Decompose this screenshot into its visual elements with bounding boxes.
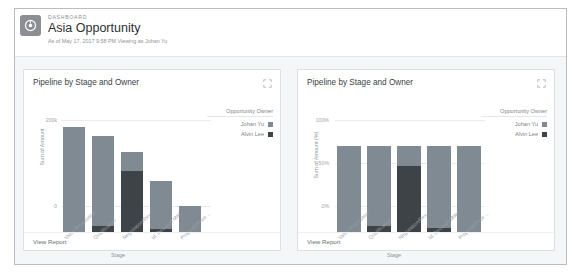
chart-card-pipeline-amount: Pipeline by Stage and Owner Sum of Amoun… [23, 69, 281, 251]
legend-swatch-icon [542, 132, 547, 137]
bar-group [61, 120, 211, 232]
y-tick-label: 0 [37, 203, 57, 209]
y-tick-label: 100% [309, 117, 329, 123]
y-tick-label: 0% [309, 203, 329, 209]
legend-swatch-icon [542, 122, 547, 127]
x-axis-label: Stage [387, 252, 401, 258]
dashboard-timestamp: As of May 17, 2017 9:58 PM Viewing as Jo… [48, 38, 167, 44]
card-title: Pipeline by Stage and Owner [33, 78, 139, 87]
card-footer: View Report [24, 232, 280, 250]
legend-item-alvin-lee[interactable]: Alvin Lee [207, 131, 273, 137]
bar-negotiation-review[interactable] [121, 120, 143, 232]
page-title: Asia Opportunity [48, 21, 140, 35]
bar-qualification[interactable] [367, 120, 391, 232]
dashboard-eyebrow: DASHBOARD [48, 14, 87, 20]
chart-card-pipeline-percent: Pipeline by Stage and Owner Sum of Amoun… [297, 69, 555, 251]
bar-segment-johan-yu [367, 146, 391, 226]
bar-id-decision-makers[interactable] [150, 120, 172, 232]
bar-segment-johan-yu [397, 146, 421, 166]
dashboard-gauge-icon [20, 15, 41, 36]
legend-item-alvin-lee[interactable]: Alvin Lee [481, 131, 547, 137]
bar-value-proposition[interactable] [63, 120, 85, 232]
chart-plot-area-amount: Sum of Amount 200k 0 [33, 94, 213, 232]
expand-icon[interactable] [263, 79, 272, 88]
bar-group [335, 120, 485, 232]
view-report-link[interactable]: View Report [307, 238, 341, 245]
legend-label: Alvin Lee [515, 131, 538, 137]
bar-value-proposition[interactable] [337, 120, 361, 232]
legend-item-johan-yu[interactable]: Johan Yu [481, 121, 547, 127]
card-footer: View Report [298, 232, 554, 250]
legend-label: Johan Yu [515, 121, 538, 127]
bar-proposal-price-quote[interactable] [457, 120, 481, 232]
chart-plot-area-percent: Sum of Amount (%) 100% 50% 0% [307, 94, 487, 232]
legend-title: Opportunity Owner [481, 108, 547, 117]
dashboard-page: DASHBOARD Asia Opportunity As of May 17,… [0, 0, 583, 279]
chart-legend: Opportunity Owner Johan Yu Alvin Lee [207, 108, 273, 137]
legend-swatch-icon [268, 122, 273, 127]
card-title: Pipeline by Stage and Owner [307, 78, 413, 87]
dashboard-frame: DASHBOARD Asia Opportunity As of May 17,… [14, 8, 567, 265]
bar-segment-johan-yu [63, 127, 85, 232]
dashboard-header: DASHBOARD Asia Opportunity As of May 17,… [15, 9, 566, 57]
bar-segment-johan-yu [121, 152, 143, 171]
chart-legend: Opportunity Owner Johan Yu Alvin Lee [481, 108, 547, 137]
view-report-link[interactable]: View Report [33, 238, 67, 245]
y-tick-label: 200k [37, 117, 57, 123]
legend-title: Opportunity Owner [207, 108, 273, 117]
y-axis-label: Sum of Amount (%) [313, 120, 321, 190]
legend-item-johan-yu[interactable]: Johan Yu [207, 121, 273, 127]
bar-negotiation-review[interactable] [397, 120, 421, 232]
legend-label: Johan Yu [241, 121, 264, 127]
y-tick-label: 50% [309, 160, 329, 166]
bar-qualification[interactable] [92, 120, 114, 232]
expand-icon[interactable] [537, 79, 546, 88]
x-axis-label: Stage [111, 252, 125, 258]
bar-proposal-price-quote[interactable] [179, 120, 201, 232]
legend-swatch-icon [268, 132, 273, 137]
legend-label: Alvin Lee [241, 131, 264, 137]
bar-segment-johan-yu [427, 146, 451, 228]
bar-id-decision-makers[interactable] [427, 120, 451, 232]
